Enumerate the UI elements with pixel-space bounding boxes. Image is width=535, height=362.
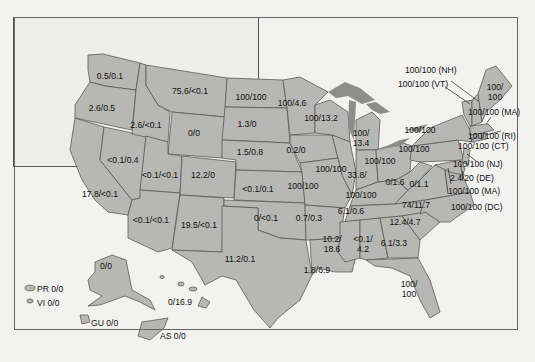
label-ME-1: 100/ bbox=[487, 82, 504, 92]
label-SC: 12.4/4.7 bbox=[389, 217, 420, 227]
callout-NJ: 100/100 (NJ) bbox=[453, 159, 503, 169]
callout-RI: 100/100 (RI) bbox=[468, 131, 516, 141]
state-HI-3 bbox=[189, 287, 197, 291]
label-AS: AS 0/0 bbox=[160, 331, 186, 341]
label-PR: PR 0/0 bbox=[37, 284, 63, 294]
label-MS-1: 10.2/ bbox=[322, 234, 341, 244]
label-MI-1: 100/ bbox=[353, 128, 370, 138]
label-ID: 2.6/<0.1 bbox=[130, 120, 161, 130]
label-WV: 0/1.6 bbox=[385, 177, 404, 187]
label-OH: 100/100 bbox=[364, 156, 395, 166]
label-GA: 6.1/3.3 bbox=[381, 238, 407, 248]
callout-CT: 100/100 (CT) bbox=[458, 141, 509, 151]
label-NE: 1.5/0.8 bbox=[237, 147, 263, 157]
label-WI: 100/13.2 bbox=[304, 113, 337, 123]
label-FL-2: 100 bbox=[402, 289, 416, 299]
state-HI-1 bbox=[160, 276, 164, 279]
label-KY: 100/100 bbox=[345, 190, 376, 200]
callout-MA: 100/100 (MA) bbox=[468, 107, 520, 117]
label-FL-1: 100/ bbox=[401, 279, 418, 289]
label-UT: <0.1/<0.1 bbox=[142, 170, 178, 180]
label-VA: 0/1.1 bbox=[409, 179, 428, 189]
callout-VT: 100/100 (VT) bbox=[398, 79, 448, 89]
label-MI-2: 13.4 bbox=[353, 138, 370, 148]
callout-DC: 100/100 (DC) bbox=[451, 202, 503, 212]
label-IL: 100/100 bbox=[315, 164, 346, 174]
label-NV: <0.1/0.4 bbox=[107, 155, 138, 165]
label-IN: 33.8/ bbox=[347, 170, 366, 180]
label-WA: 0.5/0.1 bbox=[97, 71, 123, 81]
label-PA: 100/100 bbox=[398, 144, 429, 154]
state-HI-2 bbox=[178, 282, 184, 286]
label-AK: 0/0 bbox=[100, 261, 112, 271]
label-MN: 100/4.6 bbox=[278, 98, 307, 108]
territory-VI bbox=[27, 299, 33, 303]
label-AZ: <0.1/<0.1 bbox=[133, 215, 169, 225]
label-CA: 17.8/<0.1 bbox=[82, 189, 118, 199]
label-OK: 0/<0.1 bbox=[254, 213, 278, 223]
label-OR: 2.6/0.5 bbox=[89, 103, 115, 113]
label-MO: 100/100 bbox=[287, 181, 318, 191]
label-GU: GU 0/0 bbox=[91, 318, 118, 328]
label-MS-2: 18.6 bbox=[324, 244, 341, 254]
label-MT: 75.6/<0.1 bbox=[172, 86, 208, 96]
territory-PR bbox=[25, 285, 35, 291]
callout-MD: 100/100 (MA) bbox=[448, 186, 500, 196]
callout-DE: 2.4/20 (DE) bbox=[450, 173, 494, 183]
state-AK bbox=[88, 255, 155, 310]
label-AL-1: <0.1/ bbox=[353, 234, 372, 244]
label-NM: 19.5/<0.1 bbox=[181, 220, 217, 230]
label-KS: <0.1/0.1 bbox=[242, 184, 273, 194]
callout-NH: 100/100 (NH) bbox=[405, 65, 457, 75]
label-VI: VI 0/0 bbox=[37, 298, 59, 308]
label-AL-2: 4.2 bbox=[357, 244, 369, 254]
label-NC: 74/11.7 bbox=[402, 200, 430, 210]
label-TX: 11.2/0.1 bbox=[225, 254, 255, 264]
label-ND: 100/100 bbox=[235, 92, 266, 102]
label-ME-2: 100 bbox=[488, 92, 502, 102]
state-HI-4 bbox=[198, 297, 210, 308]
label-TN: 6.1/0.6 bbox=[338, 206, 364, 216]
label-SD: 1.3/0 bbox=[237, 119, 256, 129]
label-IA: 0.2/0 bbox=[286, 145, 305, 155]
label-HI: 0/16.9 bbox=[168, 297, 192, 307]
label-AR: 0.7/0.3 bbox=[296, 213, 322, 223]
label-NY: 100/100 bbox=[404, 125, 435, 135]
label-WY: 0/0 bbox=[188, 128, 200, 138]
map-border bbox=[13, 17, 258, 167]
territory-GU bbox=[80, 315, 90, 324]
label-CO: 12.2/0 bbox=[191, 170, 215, 180]
label-LA: 1.8/6.9 bbox=[304, 265, 330, 275]
